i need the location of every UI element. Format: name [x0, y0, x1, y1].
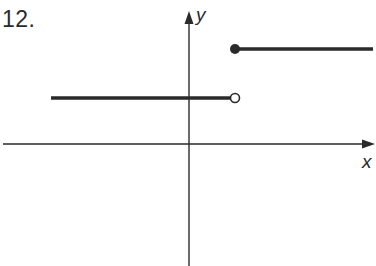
x-axis-arrow-icon	[362, 140, 375, 149]
filled-dot-endpoint	[230, 44, 240, 54]
open-circle-endpoint	[231, 94, 240, 103]
y-axis-label: y	[196, 4, 206, 26]
y-axis-arrow-icon	[185, 11, 194, 24]
lower-segment	[51, 94, 240, 103]
y-axis	[185, 11, 194, 266]
x-axis-label: x	[362, 151, 372, 173]
step-function-graph	[0, 0, 376, 266]
upper-segment	[230, 44, 373, 54]
